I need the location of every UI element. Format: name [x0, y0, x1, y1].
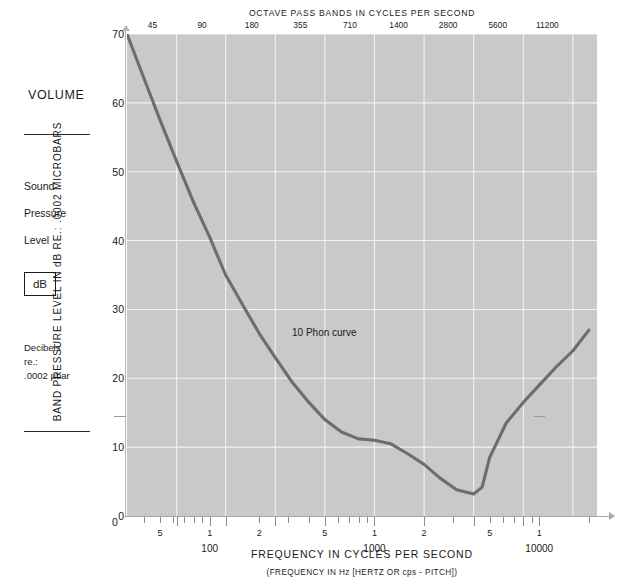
- y-axis-title: BAND PRESSURE LEVEL IN dB RE.: .0002 MIC…: [52, 107, 63, 437]
- octave-band-label: 5600: [488, 20, 507, 30]
- octave-band-tick-labels: 459018035571014002800560011200: [127, 20, 597, 32]
- x-axis-tick: [144, 517, 145, 523]
- x-axis-decade-label: 100: [201, 543, 218, 554]
- x-axis-tick: [539, 517, 540, 526]
- x-axis-tick: [177, 517, 178, 526]
- sidebar-reference-note: Decibels re.: .0002 µbar: [24, 341, 70, 383]
- x-axis-tick: [288, 517, 289, 523]
- x-axis-tick: [453, 517, 454, 523]
- curve-annotation: 10 Phon curve: [292, 327, 357, 338]
- plot-area: [127, 34, 597, 516]
- x-axis-tick: [374, 517, 375, 526]
- x-axis-tick: [474, 517, 475, 526]
- x-axis-tick: [194, 517, 195, 523]
- x-axis-mantissa-label: 1: [372, 528, 377, 538]
- top-axis-title: OCTAVE PASS BANDS IN CYCLES PER SECOND: [127, 8, 597, 18]
- x-axis-tick: [589, 517, 590, 523]
- x-axis-mantissa-label: 1: [207, 528, 212, 538]
- octave-band-label: 11200: [536, 20, 559, 30]
- x-axis-tick: [359, 517, 360, 523]
- y-axis-tick-label: 70: [112, 28, 124, 40]
- x-axis-mantissa-label: 5: [322, 528, 327, 538]
- x-axis-mantissa-label: 2: [257, 528, 262, 538]
- y-axis-tick-label: 30: [112, 303, 124, 315]
- x-axis-tick: [259, 517, 260, 523]
- y-axis-tick-label: 40: [112, 235, 124, 247]
- octave-band-label: 2800: [439, 20, 458, 30]
- x-axis-mantissa-label: 2: [422, 528, 427, 538]
- x-axis-tick: [532, 517, 533, 523]
- x-axis-subtitle: (FREQUENCY IN Hz [HERTZ OR cps - PITCH]): [127, 568, 597, 577]
- plot-minor-tick-marker: [534, 416, 545, 417]
- x-axis-tick: [173, 517, 174, 523]
- x-axis-zero-label: 0: [112, 516, 118, 528]
- x-axis-ruler: 6312525050010002000400080005125125110010…: [127, 517, 597, 551]
- x-axis-mantissa-label: 5: [158, 528, 163, 538]
- x-axis-tick: [325, 517, 326, 526]
- sidebar-label-level: Level: [24, 234, 49, 246]
- x-axis-decade-label: 1000: [363, 543, 385, 554]
- x-axis-tick: [490, 517, 491, 523]
- y-axis-minor-tick-16db: [114, 416, 126, 417]
- y-axis-tick-label: 0: [118, 510, 124, 522]
- reference-note-line-1: Decibels: [24, 341, 70, 355]
- x-axis-mantissa-label: 1: [537, 528, 542, 538]
- octave-band-label: 180: [245, 20, 259, 30]
- y-axis-tick-label: 60: [112, 97, 124, 109]
- x-axis-tick: [160, 517, 161, 523]
- octave-band-label: 1400: [389, 20, 408, 30]
- octave-band-label: 355: [293, 20, 307, 30]
- x-axis-tick: [275, 517, 276, 526]
- sidebar-label-sound: Sound: [24, 180, 54, 192]
- x-axis-tick: [202, 517, 203, 523]
- x-axis-tick: [503, 517, 504, 523]
- x-axis-tick: [184, 517, 185, 523]
- x-axis-tick: [523, 517, 524, 526]
- y-axis-tick-label: 20: [112, 372, 124, 384]
- x-axis-tick: [338, 517, 339, 523]
- x-axis-tick: [349, 517, 350, 523]
- sidebar-volume-title: VOLUME: [28, 88, 84, 102]
- x-axis-tick: [309, 517, 310, 523]
- x-axis-tick: [226, 517, 227, 526]
- x-axis-tick: [210, 517, 211, 526]
- reference-note-line-3: .0002 µbar: [24, 369, 70, 383]
- x-axis-decade-label: 10000: [525, 543, 553, 554]
- x-axis-tick: [514, 517, 515, 523]
- octave-band-label: 90: [197, 20, 206, 30]
- x-axis-arrow-icon: [609, 512, 615, 520]
- x-axis-tick: [367, 517, 368, 523]
- octave-band-label: 45: [148, 20, 157, 30]
- octave-band-label: 710: [343, 20, 357, 30]
- x-axis-mantissa-label: 5: [487, 528, 492, 538]
- equal-loudness-chart-page: VOLUME Sound Pressure Level dB Decibels …: [0, 0, 638, 586]
- x-axis-tick: [424, 517, 425, 526]
- y-axis-tick-labels: 010203040506070: [92, 34, 124, 516]
- y-axis-tick-label: 50: [112, 166, 124, 178]
- y-axis-tick-label: 10: [112, 441, 124, 453]
- reference-note-line-2: re.:: [24, 355, 70, 369]
- plot-svg: [127, 34, 597, 516]
